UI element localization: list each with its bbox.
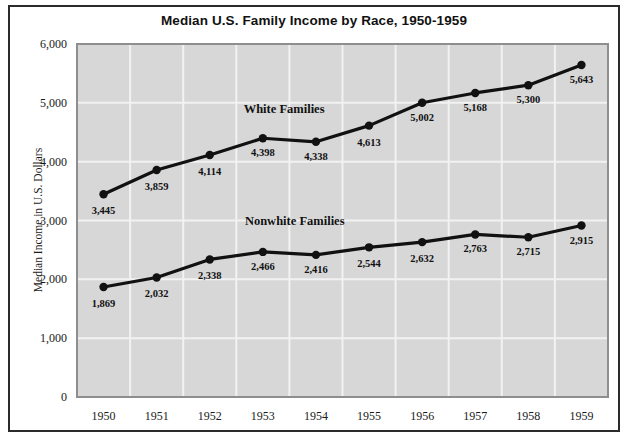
y-tick-label: 3,000 bbox=[40, 214, 67, 228]
data-point bbox=[152, 166, 160, 174]
data-point-label: 3,859 bbox=[145, 181, 169, 192]
data-point bbox=[99, 190, 107, 198]
x-tick-label: 1955 bbox=[357, 409, 381, 423]
x-tick-label: 1957 bbox=[463, 409, 487, 423]
x-tick-labels-group: 1950195119521953195419551956195719581959 bbox=[92, 409, 594, 423]
data-point-label: 2,915 bbox=[570, 235, 594, 246]
x-tick-label: 1956 bbox=[410, 409, 434, 423]
y-tick-labels-group: 6,0005,0004,0003,0002,0001,0000 bbox=[40, 37, 67, 404]
data-point bbox=[418, 238, 426, 246]
footer-cut-text bbox=[10, 436, 410, 443]
data-point bbox=[206, 255, 214, 263]
data-point-label: 2,544 bbox=[357, 258, 381, 269]
data-point bbox=[312, 138, 320, 146]
data-point-label: 4,114 bbox=[198, 166, 222, 177]
data-point bbox=[365, 243, 373, 251]
data-point bbox=[99, 283, 107, 291]
data-point bbox=[312, 251, 320, 259]
data-point-label: 4,613 bbox=[357, 137, 381, 148]
series-annotation-label: White Families bbox=[244, 102, 325, 116]
chart-figure: Median U.S. Family Income by Race, 1950-… bbox=[0, 0, 628, 443]
data-point bbox=[259, 248, 267, 256]
y-tick-label: 2,000 bbox=[40, 272, 67, 286]
data-point bbox=[524, 81, 532, 89]
data-point-label: 4,338 bbox=[304, 151, 328, 162]
x-tick-label: 1950 bbox=[92, 409, 116, 423]
data-point bbox=[577, 221, 585, 229]
data-point bbox=[471, 230, 479, 238]
data-point-label: 2,466 bbox=[251, 261, 275, 272]
data-point-label: 5,643 bbox=[570, 74, 594, 85]
y-tick-label: 5,000 bbox=[40, 96, 67, 110]
series-annotation-label: Nonwhite Families bbox=[245, 214, 345, 228]
y-tick-label: 4,000 bbox=[40, 155, 67, 169]
plot-svg: 6,0005,0004,0003,0002,0001,0000 19501951… bbox=[0, 0, 628, 443]
data-point-label: 5,168 bbox=[463, 102, 487, 113]
data-point-label: 2,032 bbox=[145, 288, 169, 299]
data-point bbox=[418, 99, 426, 107]
data-point-label: 1,869 bbox=[92, 298, 116, 309]
data-point bbox=[259, 134, 267, 142]
data-point bbox=[577, 61, 585, 69]
data-point bbox=[365, 121, 373, 129]
x-tick-label: 1953 bbox=[251, 409, 275, 423]
data-point bbox=[524, 233, 532, 241]
x-tick-label: 1952 bbox=[198, 409, 222, 423]
x-tick-label: 1959 bbox=[569, 409, 593, 423]
data-point-label: 2,632 bbox=[410, 253, 434, 264]
x-tick-label: 1954 bbox=[304, 409, 328, 423]
data-point-label: 2,338 bbox=[198, 270, 222, 281]
data-point bbox=[206, 151, 214, 159]
data-point-label: 2,416 bbox=[304, 264, 328, 275]
data-point bbox=[471, 89, 479, 97]
y-tick-label: 6,000 bbox=[40, 37, 67, 51]
data-point bbox=[152, 273, 160, 281]
y-tick-label: 0 bbox=[61, 390, 67, 404]
data-point-label: 5,300 bbox=[517, 94, 541, 105]
data-point-label: 3,445 bbox=[92, 205, 116, 216]
data-point-label: 4,398 bbox=[251, 147, 275, 158]
x-tick-label: 1951 bbox=[145, 409, 169, 423]
data-point-label: 2,763 bbox=[463, 243, 487, 254]
data-point-label: 5,002 bbox=[410, 112, 434, 123]
x-tick-label: 1958 bbox=[516, 409, 540, 423]
y-tick-label: 1,000 bbox=[40, 331, 67, 345]
data-point-label: 2,715 bbox=[517, 246, 541, 257]
